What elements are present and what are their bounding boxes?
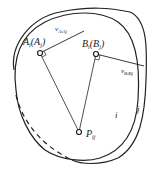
label-point-a: Ai(Aj) bbox=[22, 36, 46, 48]
velocity-a-vector bbox=[40, 31, 84, 53]
line-b-to-pole bbox=[79, 54, 96, 132]
label-body-i: i bbox=[115, 110, 118, 120]
instant-center-diagram: Ai(Aj) Bi(Bj) vAiAj vBiBj Pij i j bbox=[0, 0, 153, 169]
point-a bbox=[38, 51, 43, 56]
label-point-b: Bi(Bj) bbox=[82, 38, 105, 50]
label-velocity-a: vAiAj bbox=[55, 25, 68, 34]
label-velocity-b: vBiBj bbox=[121, 67, 134, 76]
body-j-hidden-outline bbox=[16, 95, 72, 160]
label-pole: Pij bbox=[85, 128, 96, 140]
label-body-j: j bbox=[136, 104, 140, 114]
point-b bbox=[94, 52, 99, 57]
line-a-to-pole bbox=[40, 53, 79, 132]
pole-point bbox=[77, 130, 82, 135]
